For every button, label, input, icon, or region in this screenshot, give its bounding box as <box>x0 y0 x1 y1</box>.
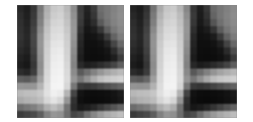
left-patch-canvas <box>17 5 124 118</box>
right-patch-panel <box>130 5 237 118</box>
right-patch-canvas <box>130 5 237 118</box>
patch-comparison-figure <box>0 0 253 122</box>
left-patch-panel <box>17 5 124 118</box>
